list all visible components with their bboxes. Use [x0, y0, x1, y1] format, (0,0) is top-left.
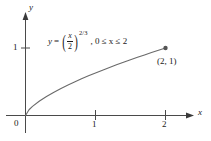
endpoint-label: (2, 1): [157, 57, 177, 66]
equation-fraction: x 2: [67, 32, 73, 51]
equation-equals: =: [54, 37, 59, 46]
equation-exponent: 2/3: [79, 30, 87, 37]
function-curve: [26, 48, 166, 116]
fraction-numerator: x: [67, 32, 73, 41]
endpoint-marker: [163, 46, 167, 50]
plot-canvas: [0, 0, 211, 141]
graph-figure: y x 0 1 1 2 (2, 1) y = ( x 2 ) 2/3 , 0 ≤…: [0, 0, 211, 141]
equation-close-paren: ): [74, 33, 78, 51]
x-axis-arrowhead: [186, 113, 194, 119]
fraction-denominator: 2: [67, 42, 73, 51]
y-axis-arrowhead: [23, 12, 29, 20]
x-axis-label: x: [198, 108, 202, 117]
origin-label: 0: [14, 119, 19, 128]
x-tick-label-2: 2: [162, 120, 167, 129]
equation-annotation: y = ( x 2 ) 2/3 , 0 ≤ x ≤ 2: [48, 32, 127, 51]
equation-open-paren: (: [62, 33, 66, 51]
equation-condition: , 0 ≤ x ≤ 2: [90, 37, 127, 46]
x-tick-label-1: 1: [92, 120, 97, 129]
equation-lhs: y: [48, 37, 52, 46]
y-axis-label: y: [29, 3, 33, 12]
y-tick-label-1: 1: [13, 43, 18, 52]
